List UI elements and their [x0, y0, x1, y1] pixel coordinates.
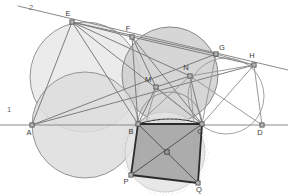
point-label-G: G: [219, 43, 225, 52]
point-label-B: B: [128, 127, 133, 136]
point-marker-F: [130, 35, 134, 39]
geometry-diagram: ABCDEFGHMNPQ12: [0, 0, 288, 196]
point-marker-N: [188, 74, 192, 78]
point-label-F: F: [126, 24, 131, 33]
point-marker-M: [154, 85, 158, 89]
point-label-E: E: [65, 9, 70, 18]
point-label-M: M: [145, 75, 151, 84]
point-marker-H: [252, 63, 256, 67]
point-marker-E: [70, 20, 74, 24]
geometry-figure-canvas: ABCDEFGHMNPQ12: [0, 0, 288, 196]
line-label-line2: 2: [29, 3, 33, 12]
line-label-line1: 1: [7, 105, 11, 114]
point-label-A: A: [26, 128, 31, 137]
point-label-Q: Q: [196, 185, 202, 194]
point-marker-D: [260, 123, 264, 127]
point-marker-G: [214, 52, 218, 56]
point-marker-B: [136, 122, 140, 126]
quad-diagonal-intersection-marker: [165, 150, 169, 154]
quadrilateral-layer: [131, 124, 202, 183]
point-marker-P: [129, 173, 133, 177]
point-label-N: N: [183, 63, 188, 72]
point-label-D: D: [257, 128, 263, 137]
point-label-H: H: [249, 51, 254, 60]
point-label-C: C: [197, 127, 203, 136]
point-label-P: P: [123, 177, 128, 186]
point-marker-A: [30, 123, 34, 127]
point-marker-C: [200, 122, 204, 126]
